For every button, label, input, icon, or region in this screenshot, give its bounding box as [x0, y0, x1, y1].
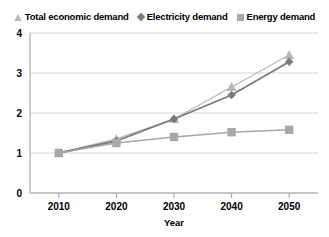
x-axis-tick-label: 2050 — [278, 201, 301, 212]
square-icon — [237, 14, 244, 21]
x-axis-tick-label: 2030 — [163, 201, 186, 212]
x-axis-tick-label: 2020 — [105, 201, 128, 212]
y-axis-tick-labels: 01234 — [16, 28, 22, 199]
square-marker — [112, 139, 120, 147]
square-marker — [227, 128, 235, 136]
gridlines — [30, 33, 318, 193]
y-axis-tick-label: 4 — [16, 28, 22, 39]
x-axis-title: Year — [164, 217, 184, 228]
x-axis-ticks — [59, 193, 289, 198]
triangle-icon — [14, 14, 22, 21]
x-axis-tick-label: 2040 — [220, 201, 243, 212]
square-marker — [285, 126, 293, 134]
y-axis-tick-label: 2 — [16, 108, 22, 119]
y-axis-tick-label: 1 — [16, 148, 22, 159]
y-axis-tick-label: 0 — [16, 188, 22, 199]
legend-item-energy-demand: Energy demand — [237, 12, 316, 22]
y-axis-tick-label: 3 — [16, 68, 22, 79]
diamond-marker — [227, 91, 235, 99]
square-marker — [55, 149, 63, 157]
diamond-icon — [136, 13, 144, 21]
square-marker — [170, 133, 178, 141]
plot-area: 01234 20102020203020402050 Year — [0, 26, 329, 237]
legend-label: Electricity demand — [147, 12, 228, 22]
chart-container: Total economic demand Electricity demand… — [0, 0, 329, 237]
legend-label: Energy demand — [247, 12, 316, 22]
chart-legend: Total economic demand Electricity demand… — [0, 8, 329, 26]
legend-item-total-economic-demand: Total economic demand — [14, 12, 129, 22]
legend-label: Total economic demand — [25, 12, 129, 22]
data-series — [55, 126, 294, 158]
x-axis-tick-label: 2010 — [48, 201, 71, 212]
x-axis-tick-labels: 20102020203020402050 — [48, 201, 301, 212]
triangle-marker — [227, 82, 237, 91]
data-series-layer — [54, 50, 294, 157]
legend-item-electricity-demand: Electricity demand — [138, 12, 228, 22]
